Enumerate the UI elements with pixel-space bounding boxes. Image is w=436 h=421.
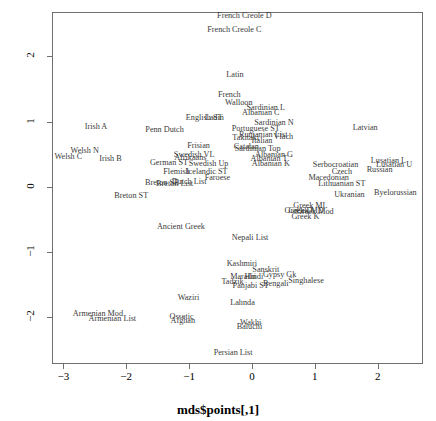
- y-tick-mark: [47, 252, 52, 253]
- data-point-label: Albanian C: [242, 109, 280, 117]
- y-tick-mark: [47, 122, 52, 123]
- y-tick-mark: [47, 56, 52, 57]
- data-point-label: Armenian List: [89, 315, 137, 323]
- data-point-label: Welsh C: [54, 153, 82, 161]
- x-tick-mark: [126, 364, 127, 369]
- x-tick-label: −1: [183, 370, 195, 382]
- x-axis-title: mds$points[,1]: [0, 402, 436, 418]
- data-point-label: Ancient Greek: [157, 223, 205, 231]
- x-tick-mark: [315, 364, 316, 369]
- data-point-label: Russian: [367, 166, 393, 174]
- data-point-label: Vlach: [274, 133, 294, 141]
- y-tick-label: 2: [24, 47, 36, 63]
- data-point-label: Lithuanian ST: [318, 180, 365, 188]
- data-point-label: Ukranian: [334, 190, 364, 198]
- data-point-label: Irish B: [99, 155, 122, 163]
- data-point-label: Singhalese: [288, 277, 323, 285]
- data-point-label: Frisian: [187, 142, 210, 150]
- y-tick-mark: [47, 187, 52, 188]
- x-tick-mark: [252, 364, 253, 369]
- x-tick-label: −3: [57, 370, 69, 382]
- data-point-label: Latin: [226, 70, 243, 78]
- data-point-label: Albanian K: [252, 160, 290, 168]
- y-tick-mark: [47, 317, 52, 318]
- x-tick-mark: [378, 364, 379, 369]
- data-point-label: Bengali: [263, 280, 288, 288]
- data-point-label: Baluchi: [237, 323, 262, 331]
- data-point-label: Irish A: [85, 123, 108, 131]
- y-tick-label: −2: [24, 308, 36, 324]
- y-tick-label: −1: [24, 243, 36, 259]
- data-point-label: French Creole C: [207, 26, 261, 34]
- x-tick-label: 0: [249, 370, 255, 382]
- data-point-label: Penn Dutch: [145, 126, 183, 134]
- data-point-label: Afghan: [171, 317, 196, 325]
- data-point-label: Lahnda: [230, 299, 255, 307]
- data-point-label: French Creole D: [217, 12, 272, 20]
- x-tick-label: 2: [375, 370, 381, 382]
- data-point-label: Nepali List: [232, 233, 269, 241]
- data-point-label: Greek K: [291, 213, 319, 221]
- data-point-label: Persian List: [214, 349, 253, 357]
- data-point-label: Latvian: [353, 124, 378, 132]
- data-point-label: Ladin: [205, 114, 224, 122]
- data-point-label: Breton List: [156, 180, 193, 188]
- data-point-label: Faroese: [205, 173, 230, 181]
- data-point-label: Byelorussian: [374, 189, 417, 197]
- x-tick-label: −2: [120, 370, 132, 382]
- y-tick-label: 0: [24, 178, 36, 194]
- y-tick-label: 1: [24, 113, 36, 129]
- scatter-plot-figure: mds$points[,1] mds$points[,3] −3−2−1012 …: [0, 0, 436, 421]
- data-point-label: Waziri: [178, 293, 200, 301]
- x-tick-mark: [63, 364, 64, 369]
- x-tick-mark: [189, 364, 190, 369]
- x-tick-label: 1: [312, 370, 318, 382]
- data-point-label: Breton ST: [114, 192, 148, 200]
